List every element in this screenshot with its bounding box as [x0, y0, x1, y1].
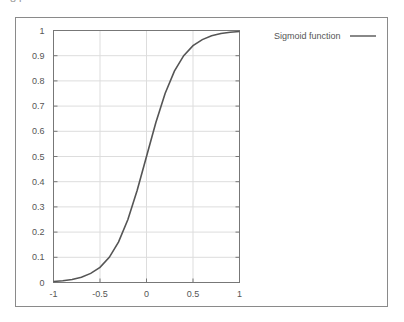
- x-tick-label: -0.5: [92, 289, 108, 299]
- y-tick-label: 0.2: [32, 227, 45, 237]
- outer-frame: [16, 18, 388, 307]
- x-tick-label: 0: [144, 289, 149, 299]
- y-tick-label: 0.8: [32, 76, 45, 86]
- y-tick-label: 0.6: [32, 126, 45, 136]
- y-tick-label: 0.9: [32, 51, 45, 61]
- y-tick-label: 0.3: [32, 202, 45, 212]
- x-tick-label: 1: [237, 289, 242, 299]
- y-tick-label: 1: [39, 26, 44, 36]
- x-axis-ticks: -1-0.500.51: [49, 279, 242, 299]
- y-tick-label: 0.1: [32, 252, 45, 262]
- y-tick-label: 0.5: [32, 152, 45, 162]
- y-tick-label: 0: [39, 278, 44, 288]
- x-tick-label: 0.5: [187, 289, 200, 299]
- sigmoid-chart: -1-0.500.51 00.10.20.30.40.50.60.70.80.9…: [0, 0, 404, 322]
- y-tick-label: 0.7: [32, 101, 45, 111]
- legend-label: Sigmoid function: [274, 31, 341, 41]
- x-tick-label: -1: [49, 289, 57, 299]
- y-tick-label: 0.4: [32, 177, 45, 187]
- legend: Sigmoid function: [274, 31, 376, 41]
